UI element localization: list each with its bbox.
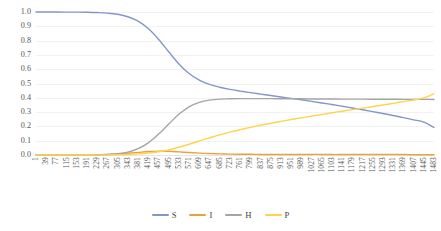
legend-item-s[interactable]: S bbox=[152, 211, 177, 220]
series-line-s bbox=[36, 12, 434, 127]
x-axis-tick: 1331 bbox=[389, 157, 397, 173]
plot-area bbox=[36, 12, 434, 155]
legend-swatch-icon bbox=[152, 214, 169, 216]
x-axis-tick: 153 bbox=[73, 157, 81, 169]
x-axis-tick: 951 bbox=[287, 157, 295, 169]
x-axis-tick: 191 bbox=[83, 157, 91, 169]
y-axis-tick: 0.3 bbox=[21, 108, 31, 116]
line-chart: 1.00.90.80.70.60.50.40.30.20.10.0 139771… bbox=[0, 0, 441, 231]
y-axis-tick: 0.9 bbox=[21, 22, 31, 30]
legend-label: P bbox=[285, 211, 290, 220]
chart-legend: SIHP bbox=[0, 207, 441, 223]
x-axis-tick: 381 bbox=[134, 157, 142, 169]
x-axis-tick: 343 bbox=[124, 157, 132, 169]
x-axis-tick: 1483 bbox=[430, 157, 438, 173]
x-axis-tick: 761 bbox=[236, 157, 244, 169]
legend-item-h[interactable]: H bbox=[225, 211, 251, 220]
y-axis-tick: 0.5 bbox=[21, 80, 31, 88]
legend-swatch-icon bbox=[189, 214, 206, 216]
x-axis-tick: 647 bbox=[205, 157, 213, 169]
x-axis-tick: 1217 bbox=[359, 157, 367, 173]
x-axis-tick: 419 bbox=[144, 157, 152, 169]
series-lines bbox=[36, 12, 434, 155]
x-axis-tick: 267 bbox=[103, 157, 111, 169]
y-axis-tick: 0.4 bbox=[21, 94, 31, 102]
legend-item-i[interactable]: I bbox=[189, 211, 212, 220]
x-axis-tick: 1293 bbox=[379, 157, 387, 173]
x-axis-tick: 1 bbox=[32, 157, 40, 161]
x-axis: 1397711515319122926730534338141945749553… bbox=[36, 157, 434, 203]
x-axis-tick: 1027 bbox=[308, 157, 316, 173]
x-axis-tick: 837 bbox=[257, 157, 265, 169]
x-axis-tick: 875 bbox=[267, 157, 275, 169]
x-axis-tick: 457 bbox=[154, 157, 162, 169]
legend-label: H bbox=[245, 211, 251, 220]
y-axis-tick: 0.0 bbox=[21, 151, 31, 159]
x-axis-tick: 229 bbox=[93, 157, 101, 169]
x-axis-tick: 77 bbox=[52, 157, 60, 165]
series-line-h bbox=[36, 99, 434, 155]
series-line-p bbox=[36, 94, 434, 155]
legend-item-p[interactable]: P bbox=[265, 211, 290, 220]
y-axis-tick: 0.7 bbox=[21, 51, 31, 59]
x-axis-tick: 495 bbox=[165, 157, 173, 169]
x-axis-tick: 1407 bbox=[410, 157, 418, 173]
y-axis: 1.00.90.80.70.60.50.40.30.20.10.0 bbox=[0, 0, 36, 155]
x-axis-tick: 1103 bbox=[328, 157, 336, 172]
x-axis-tick: 1141 bbox=[338, 157, 346, 172]
x-axis-tick: 685 bbox=[216, 157, 224, 169]
x-axis-tick: 723 bbox=[226, 157, 234, 169]
y-axis-tick: 0.1 bbox=[21, 137, 31, 145]
legend-label: I bbox=[209, 211, 212, 220]
x-axis-tick: 39 bbox=[42, 157, 50, 165]
x-axis-tick: 115 bbox=[63, 157, 71, 168]
x-axis-tick: 799 bbox=[246, 157, 254, 169]
y-axis-tick: 0.2 bbox=[21, 122, 31, 130]
x-axis-tick: 533 bbox=[175, 157, 183, 169]
legend-label: S bbox=[172, 211, 177, 220]
x-axis-tick: 989 bbox=[297, 157, 305, 169]
y-axis-tick: 1.0 bbox=[21, 8, 31, 16]
x-axis-tick: 1065 bbox=[318, 157, 326, 173]
x-axis-tick: 1369 bbox=[399, 157, 407, 173]
x-axis-tick: 1255 bbox=[369, 157, 377, 173]
x-axis-tick: 305 bbox=[114, 157, 122, 169]
x-axis-tick: 1445 bbox=[420, 157, 428, 173]
y-axis-tick: 0.6 bbox=[21, 65, 31, 73]
x-axis-tick: 913 bbox=[277, 157, 285, 169]
x-axis-tick: 571 bbox=[185, 157, 193, 169]
legend-swatch-icon bbox=[225, 214, 242, 216]
legend-swatch-icon bbox=[265, 214, 282, 216]
x-axis-tick: 1179 bbox=[348, 157, 356, 172]
y-axis-tick: 0.8 bbox=[21, 37, 31, 45]
x-axis-tick: 609 bbox=[195, 157, 203, 169]
